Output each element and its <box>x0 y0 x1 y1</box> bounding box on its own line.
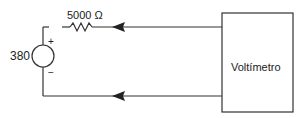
resistor-symbol <box>70 23 92 31</box>
minus-sign: − <box>48 67 54 78</box>
resistor-label: 5000 Ω <box>67 9 103 21</box>
circuit-diagram <box>0 0 303 118</box>
source-value-label: 380 <box>10 49 30 63</box>
plus-sign: + <box>48 36 54 47</box>
voltage-source-symbol <box>32 45 54 67</box>
voltmeter-label: Voltímetro <box>231 61 281 73</box>
